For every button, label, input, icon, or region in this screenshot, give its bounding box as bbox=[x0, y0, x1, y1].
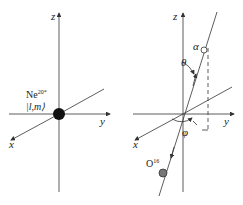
left-x-axis-back bbox=[59, 89, 104, 114]
left-z-label: z bbox=[50, 10, 56, 22]
oxygen-direction-arrow bbox=[171, 147, 174, 158]
alpha-particle bbox=[201, 47, 207, 53]
left-x-label: x bbox=[8, 138, 14, 150]
phi-label: φ bbox=[182, 126, 188, 138]
phi-projection-dash bbox=[193, 121, 197, 125]
oxygen-nucleus bbox=[159, 169, 167, 177]
left-x-axis bbox=[11, 114, 59, 140]
ne-label: Ne20* bbox=[26, 89, 47, 100]
right-x-label: x bbox=[132, 138, 138, 150]
ne-state-label: |l,m⟩ bbox=[26, 101, 45, 112]
right-panel: z y x α θ φ O16 bbox=[132, 10, 234, 196]
alpha-label: α bbox=[193, 40, 199, 52]
right-z-label: z bbox=[172, 10, 178, 22]
right-x-axis bbox=[135, 114, 183, 140]
left-y-label: y bbox=[99, 115, 105, 127]
left-panel: z y x Ne20* |l,m⟩ bbox=[8, 10, 110, 192]
oxygen-label: O16 bbox=[146, 158, 159, 169]
diagram-canvas: z y x Ne20* |l,m⟩ z y x α θ φ O16 bbox=[0, 0, 243, 205]
right-y-label: y bbox=[223, 115, 229, 127]
theta-label: θ bbox=[181, 56, 187, 68]
right-x-axis-back bbox=[183, 87, 232, 114]
ne-nucleus bbox=[53, 108, 65, 120]
